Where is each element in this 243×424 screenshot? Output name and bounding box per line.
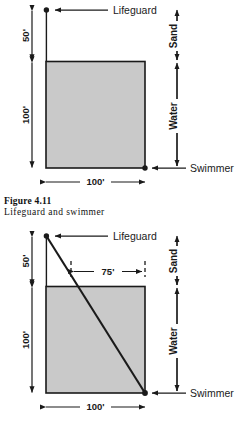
lifeguard-point xyxy=(44,7,49,12)
water-region-rect xyxy=(46,62,145,169)
figure-caption: Figure 4.11 Lifeguard and swimmer xyxy=(4,196,184,217)
water-depth-label-2: 100' xyxy=(20,331,31,349)
width-label-2: 100' xyxy=(86,401,104,412)
entry-offset-label: 75' xyxy=(102,266,115,277)
swimmer-point xyxy=(142,165,147,170)
water-label-2: Water xyxy=(168,327,179,355)
figure-container: Lifeguard Swimmer 50' 100' 100' 100' San… xyxy=(0,0,243,424)
lifeguard-point-2 xyxy=(44,233,49,238)
diagram-top: Lifeguard Swimmer 50' 100' 100' 100' San… xyxy=(20,4,235,187)
width-label-text: 100' xyxy=(86,176,104,187)
water-label: Water xyxy=(168,102,179,130)
lifeguard-label: Lifeguard xyxy=(113,4,157,16)
water-depth-label: 100' xyxy=(20,106,31,124)
beach-depth-label: 50' xyxy=(20,29,31,42)
swimmer-label-2: Swimmer xyxy=(190,387,234,399)
diagram-bottom: Lifeguard Swimmer 75' 50' 100' 100' xyxy=(20,230,235,412)
swimmer-label: Swimmer xyxy=(190,162,234,174)
figure-caption-text: Lifeguard and swimmer xyxy=(4,207,184,218)
figure-caption-number: Figure 4.11 xyxy=(4,196,184,207)
sand-label: Sand xyxy=(168,24,179,48)
lifeguard-label-2: Lifeguard xyxy=(113,230,157,242)
water-region-rect-2 xyxy=(46,287,145,394)
beach-depth-label-2: 50' xyxy=(20,255,31,268)
swimmer-point-2 xyxy=(142,390,148,396)
sand-label-2: Sand xyxy=(168,249,179,273)
